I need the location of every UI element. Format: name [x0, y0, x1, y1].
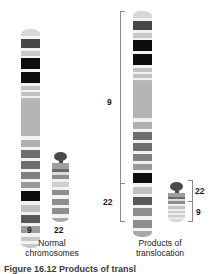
chromosome-band: [133, 122, 152, 129]
bracket-der22-tick-middle: [188, 201, 193, 202]
bracket-der9-line: [120, 11, 121, 222]
figure-caption: Figure 16.12 Products of transl: [4, 264, 208, 274]
chromosome-band: [21, 103, 40, 136]
bracket-label-der22-upper: 22: [195, 187, 204, 196]
chromosome-band: [133, 231, 152, 237]
bracket-der9-tick-middle: [120, 183, 125, 184]
chromosome-der-22: [168, 193, 185, 222]
chromosome-band: [133, 173, 152, 183]
bracket-der22-tick-top: [188, 180, 193, 181]
chromosome-band: [52, 218, 69, 222]
bracket-label-der9-upper: 9: [107, 98, 112, 107]
chromosome-band: [133, 21, 152, 30]
chromosome-band: [21, 39, 40, 48]
chromosome-band: [133, 132, 152, 140]
bracket-der22-tick-bottom: [188, 221, 193, 222]
bracket-label-der22-lower: 9: [196, 208, 201, 217]
chromosome-band: [133, 85, 152, 118]
chromosome-band: [133, 154, 152, 161]
chromosome-normal-22: [52, 163, 69, 222]
panel-label-translocation-line1: Products of: [110, 238, 210, 248]
bracket-der9-tick-bottom: [120, 221, 125, 222]
chromosome-band: [21, 29, 40, 36]
chromosome-band: [21, 140, 40, 147]
chromosome-band: [133, 197, 152, 205]
bracket-label-der9-lower: 22: [103, 198, 112, 207]
chromosome-band: [21, 215, 40, 223]
panel-label-normal-line2: chromosomes: [0, 248, 104, 258]
chromosome-band: [133, 54, 152, 65]
chromosome-band: [21, 172, 40, 179]
chromosome-band: [133, 11, 152, 18]
chromosome-band: [21, 191, 40, 201]
panel-label-normal-line1: Normal: [0, 238, 104, 248]
bracket-der9-tick-top: [120, 11, 125, 12]
label-normal-9: 9: [27, 226, 32, 235]
chromosome-band: [168, 220, 185, 222]
chromosome-band: [21, 205, 40, 212]
chromosome-der-9: [133, 11, 152, 237]
chromosome-band: [21, 161, 40, 169]
chromosome-band: [21, 58, 40, 69]
chromosome-band: [133, 40, 152, 51]
chromosome-band: [21, 150, 40, 158]
bracket-der9: [120, 11, 125, 222]
chromosome-normal-9: [21, 29, 40, 248]
bracket-der22: [188, 180, 193, 222]
panel-label-translocation-line2: translocation: [110, 248, 210, 258]
chromosome-band: [133, 208, 152, 216]
label-normal-22: 22: [54, 226, 63, 235]
chromosome-band: [21, 72, 40, 83]
chromosome-band: [133, 220, 152, 228]
chromosome-band: [133, 187, 152, 194]
chromosome-band: [133, 143, 152, 151]
